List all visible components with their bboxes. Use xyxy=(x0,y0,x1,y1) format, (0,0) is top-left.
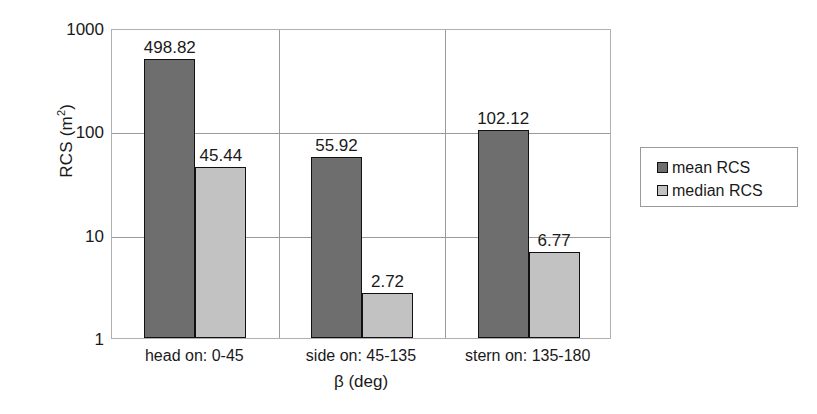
legend-item-median-rcs[interactable]: median RCS xyxy=(657,180,797,201)
bar-median-1 xyxy=(195,167,246,338)
bar-mean-1 xyxy=(144,59,195,338)
bar-mean-2 xyxy=(311,157,362,338)
legend-label: median RCS xyxy=(672,183,763,199)
x-axis-title: β (deg) xyxy=(111,372,611,392)
bar-value-label-median-3: 6.77 xyxy=(515,232,594,249)
bar-value-label-mean-2: 55.92 xyxy=(297,137,376,154)
y-tick-label-100: 100 xyxy=(44,124,104,141)
rcs-bar-chart: RCS (m2) 1000100101 498.8245.4455.922.72… xyxy=(0,0,817,414)
legend-swatch-icon xyxy=(657,185,668,196)
legend-swatch-icon xyxy=(657,162,668,173)
y-tick-label-1: 1 xyxy=(44,331,104,348)
y-tick-label-1000: 1000 xyxy=(44,21,104,38)
bar-median-3 xyxy=(529,252,580,338)
bar-median-2 xyxy=(362,293,413,338)
y-tick-label-10: 10 xyxy=(44,227,104,244)
category-separator-2 xyxy=(445,30,446,338)
category-separator-1 xyxy=(279,30,280,338)
chart-legend: mean RCSmedian RCS xyxy=(640,147,798,207)
bar-value-label-mean-3: 102.12 xyxy=(464,110,543,127)
bar-value-label-median-2: 2.72 xyxy=(348,273,427,290)
legend-item-mean-rcs[interactable]: mean RCS xyxy=(657,157,797,178)
bar-value-label-mean-1: 498.82 xyxy=(130,39,209,56)
bar-value-label-median-1: 45.44 xyxy=(181,147,260,164)
plot-area: 498.8245.4455.922.72102.126.77 xyxy=(111,29,611,339)
legend-label: mean RCS xyxy=(672,160,750,176)
x-tick-label-3: stern on: 135-180 xyxy=(428,346,628,365)
